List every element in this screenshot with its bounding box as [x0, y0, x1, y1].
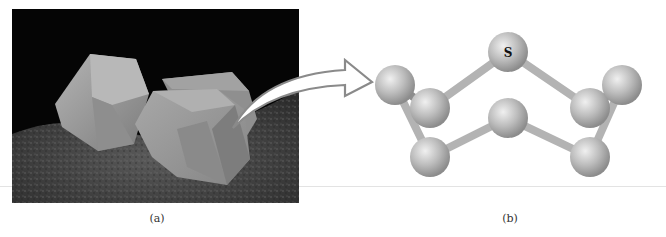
atoms: S: [375, 32, 642, 177]
caption-a: (a): [137, 212, 177, 225]
atom: [570, 137, 610, 177]
atom: [410, 137, 450, 177]
atom: [602, 65, 642, 105]
atom-label-s: S: [504, 46, 513, 60]
caption-b: (b): [490, 212, 530, 225]
s8-molecule-model: S: [360, 0, 666, 190]
atom: [488, 98, 528, 138]
atom: [410, 88, 450, 128]
sulfur-crystal-photo: [12, 9, 299, 203]
atom: [375, 65, 415, 105]
atom: [570, 88, 610, 128]
